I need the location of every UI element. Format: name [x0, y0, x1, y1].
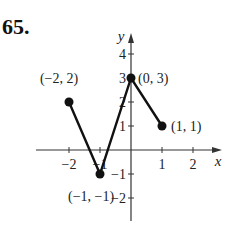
- y-axis-arrow-icon: [128, 33, 134, 43]
- y-axis-label: y: [116, 28, 125, 44]
- point-label: (−2, 2): [40, 71, 79, 87]
- y-tick-label: 3: [119, 71, 126, 86]
- x-tick-label: −2: [62, 157, 77, 172]
- y-tick-label: 1: [119, 119, 126, 134]
- point-label: (0, 3): [138, 71, 169, 87]
- x-tick-label: 1: [159, 157, 166, 172]
- data-point: [127, 74, 136, 83]
- data-point: [96, 170, 105, 179]
- x-axis-label: x: [214, 153, 222, 169]
- piecewise-line-graph: xy−2−112−2−11234(−2, 2)(−1, −1)(0, 3)(1,…: [0, 0, 233, 227]
- x-tick-label: 2: [190, 157, 197, 172]
- data-point: [65, 98, 74, 107]
- point-label: (1, 1): [171, 119, 202, 135]
- series-line: [69, 78, 162, 174]
- y-tick-label: −1: [111, 167, 126, 182]
- y-tick-label: 4: [119, 47, 126, 62]
- data-point: [158, 122, 167, 131]
- point-label: (−1, −1): [68, 189, 114, 205]
